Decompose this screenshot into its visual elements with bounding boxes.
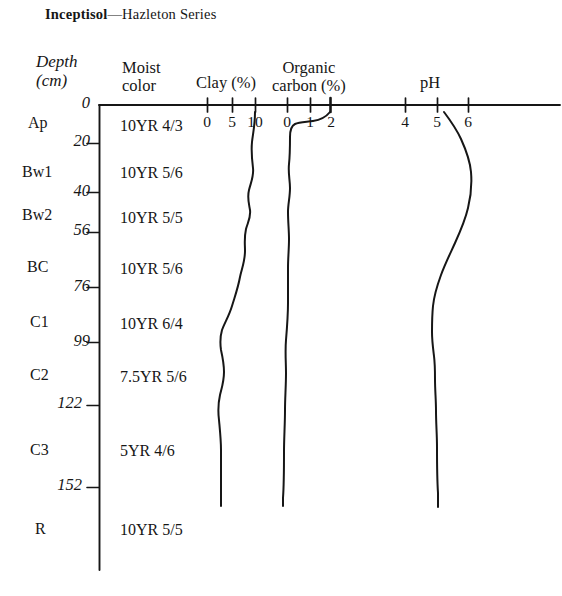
- organic-carbon-curve: [283, 112, 330, 506]
- profile-plot-area: [0, 0, 562, 596]
- ph-curve: [432, 112, 471, 507]
- clay-curve: [218, 112, 255, 506]
- soil-profile-figure: Inceptisol—Hazleton Series Depth (cm) Mo…: [0, 0, 562, 596]
